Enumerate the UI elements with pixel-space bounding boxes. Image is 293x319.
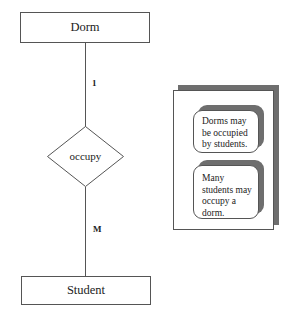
entity-student-label: Student [67, 283, 105, 298]
entity-student[interactable]: Student [21, 276, 151, 305]
note-1[interactable]: Dorms may be occupied by students. [193, 110, 259, 153]
cardinality-student: M [93, 224, 102, 234]
note-2-text: Many students may occupy a dorm. [202, 173, 252, 218]
note-2[interactable]: Many students may occupy a dorm. [193, 165, 259, 219]
connector-dorm-occupy [85, 43, 86, 127]
connector-occupy-student [85, 187, 86, 276]
entity-dorm-label: Dorm [70, 20, 99, 35]
cardinality-dorm: 1 [92, 78, 97, 88]
relationship-label: occupy [47, 126, 124, 186]
note-1-text: Dorms may be occupied by students. [202, 116, 248, 149]
entity-dorm[interactable]: Dorm [20, 12, 150, 43]
